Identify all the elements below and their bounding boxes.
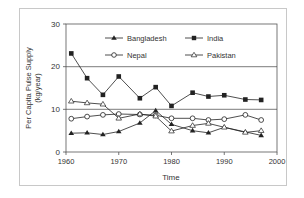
data-point [190, 116, 195, 121]
y-tick-label: 20 [51, 62, 60, 71]
legend-item-india: India [185, 34, 224, 43]
data-point [169, 116, 174, 121]
open-triangle-icon [191, 52, 197, 57]
data-point [68, 130, 74, 135]
open-circle-icon [112, 53, 117, 58]
x-tick-label: 1970 [110, 157, 127, 166]
data-point [69, 51, 74, 56]
series-pakistan [68, 98, 264, 134]
y-tick-label: 0 [56, 148, 61, 157]
y-axis-label: Per Capita Pulse Supply [24, 47, 33, 129]
data-point [169, 104, 174, 109]
svg-text:Pakistan: Pakistan [207, 51, 236, 60]
filled-square-icon [192, 36, 196, 40]
y-axis: 0102030 [51, 20, 66, 157]
y-tick-label: 10 [51, 105, 60, 114]
data-point [243, 112, 248, 117]
data-point [222, 93, 227, 98]
svg-text:India: India [207, 34, 224, 43]
data-point [259, 118, 264, 123]
x-axis-label: Time [162, 173, 180, 182]
legend-item-pakistan: Pakistan [185, 51, 236, 60]
data-point [153, 108, 159, 113]
line-chart: 0102030 19601970198019902000 Time Per Ca… [0, 0, 304, 198]
series-nepal [69, 112, 264, 123]
data-point [69, 116, 74, 121]
data-point [116, 74, 121, 79]
data-point [101, 93, 106, 98]
data-point [190, 90, 195, 95]
x-axis: 19601970198019902000 [58, 152, 286, 166]
data-point [258, 128, 264, 133]
x-tick-label: 1980 [163, 157, 180, 166]
svg-text:Nepal: Nepal [127, 51, 147, 60]
x-tick-label: 2000 [269, 157, 286, 166]
y-tick-label: 30 [51, 20, 60, 29]
legend: Bangladesh India Nepal Pakistan [105, 34, 236, 60]
data-point [137, 120, 143, 125]
data-point [138, 96, 143, 101]
data-point [153, 85, 158, 90]
data-point [85, 76, 90, 81]
y-axis-units: (kg/year) [33, 73, 42, 103]
series-bangladesh [68, 108, 264, 137]
data-point [222, 117, 227, 122]
data-point [243, 97, 248, 102]
data-point [68, 98, 74, 103]
x-tick-label: 1960 [58, 157, 75, 166]
svg-text:Bangladesh: Bangladesh [127, 34, 167, 43]
data-point [101, 112, 106, 117]
legend-item-bangladesh: Bangladesh [105, 34, 167, 43]
filled-triangle-icon [111, 35, 117, 40]
legend-item-nepal: Nepal [105, 51, 147, 60]
x-tick-label: 1990 [216, 157, 233, 166]
data-point [206, 94, 211, 99]
data-point [84, 130, 90, 135]
data-point [259, 98, 264, 103]
data-point [85, 114, 90, 119]
